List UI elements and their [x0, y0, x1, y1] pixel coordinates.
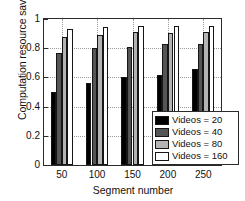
bar [67, 29, 73, 166]
x-tick-label: 100 [89, 170, 106, 180]
y-tick-label: 0.2 [26, 131, 40, 141]
legend-item: Videos = 40 [155, 126, 236, 138]
legend-label: Videos = 40 [172, 127, 222, 137]
y-tick-mark [44, 136, 48, 137]
x-tick-label: 50 [56, 170, 67, 180]
x-tick-label: 250 [195, 170, 212, 180]
legend-label: Videos = 160 [172, 151, 228, 161]
legend-swatch [155, 140, 169, 149]
chart-figure: Computation resource saving 00.20.40.60.… [0, 0, 245, 201]
x-axis-label: Segment number [43, 184, 223, 196]
y-tick-mark [44, 77, 48, 78]
y-tick-label: 1 [34, 14, 40, 24]
legend-item: Videos = 20 [155, 114, 236, 126]
y-tick-label: 0.6 [26, 72, 40, 82]
y-tick-mark [44, 107, 48, 108]
legend-label: Videos = 80 [172, 139, 222, 149]
legend-item: Videos = 80 [155, 138, 236, 150]
y-tick-label: 0 [34, 160, 40, 170]
y-tick-mark [44, 165, 48, 166]
y-tick-label: 0.4 [26, 102, 40, 112]
bar [103, 27, 109, 165]
chart-legend: Videos = 20Videos = 40Videos = 80Videos … [152, 111, 239, 165]
legend-swatch [155, 152, 169, 161]
y-tick-mark [44, 48, 48, 49]
x-tick-label: 200 [160, 170, 177, 180]
bar [138, 26, 144, 165]
legend-item: Videos = 160 [155, 150, 236, 162]
y-tick-mark [44, 19, 48, 20]
legend-swatch [155, 116, 169, 125]
x-tick-label: 150 [124, 170, 141, 180]
legend-swatch [155, 128, 169, 137]
y-tick-label: 0.8 [26, 43, 40, 53]
legend-label: Videos = 20 [172, 115, 222, 125]
